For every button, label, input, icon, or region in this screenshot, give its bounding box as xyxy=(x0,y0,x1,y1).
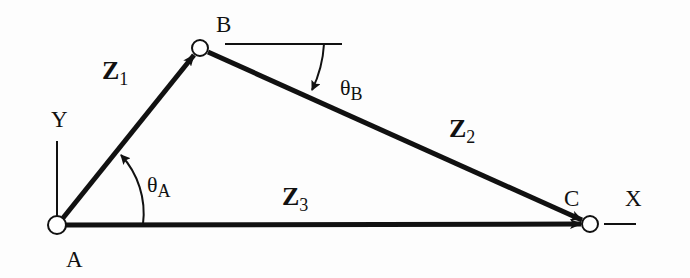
angle-label-theta-a: θA xyxy=(147,172,171,201)
pivot-c-circle xyxy=(582,216,598,232)
vector-loop-diagram: A B C X Y Z1 Z2 Z3 θA θB xyxy=(0,0,690,278)
angle-label-theta-b: θB xyxy=(340,75,363,104)
theta-a-arc xyxy=(121,155,144,224)
vector-label-z3: Z3 xyxy=(282,182,308,215)
diagram-svg: A B C X Y Z1 Z2 Z3 θA θB xyxy=(0,0,690,278)
theta-b-arc xyxy=(312,44,324,90)
pivot-b-circle xyxy=(192,40,208,56)
point-label-b: B xyxy=(216,12,231,37)
pivot-a-circle xyxy=(48,216,66,234)
point-label-a: A xyxy=(66,247,83,272)
vector-z2 xyxy=(208,52,582,220)
vector-label-z2: Z2 xyxy=(449,114,475,147)
vector-z3 xyxy=(65,224,581,225)
vector-z1 xyxy=(63,55,194,218)
vector-label-z1: Z1 xyxy=(102,56,128,89)
point-label-c: C xyxy=(564,186,579,211)
axis-label-x: X xyxy=(625,186,642,211)
axis-label-y: Y xyxy=(51,107,68,132)
